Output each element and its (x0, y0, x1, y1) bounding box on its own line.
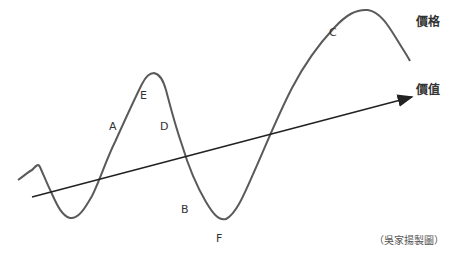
value-trend-arrow (32, 97, 412, 197)
price-value-diagram: 價格 價值 A B C D E F （吳家揚製圖） (0, 0, 459, 257)
value-label: 價值 (416, 84, 440, 96)
diagram-graphics (0, 0, 459, 257)
price-curve (18, 10, 410, 219)
point-label-e: E (140, 90, 147, 101)
price-label: 價格 (416, 16, 440, 28)
point-label-d: D (160, 121, 168, 132)
point-label-b: B (181, 204, 189, 215)
point-label-c: C (329, 27, 337, 38)
point-label-a: A (109, 121, 117, 132)
credit-text: （吳家揚製圖） (374, 236, 444, 246)
point-label-f: F (216, 233, 222, 244)
